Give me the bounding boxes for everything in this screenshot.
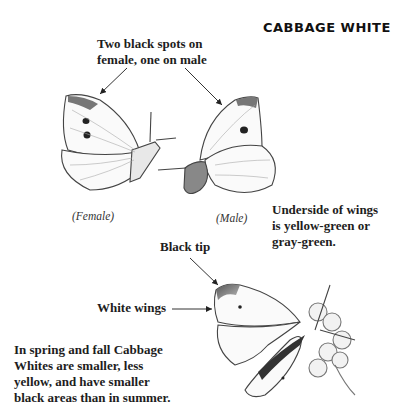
male-butterfly-icon [158,97,275,194]
illustration-canvas [0,0,405,415]
arrow-to-black-tip [190,258,218,285]
arrow-to-male [185,68,222,105]
flower-cluster-icon [309,303,355,395]
female-butterfly-icon [62,95,176,190]
arrow-to-female [100,68,127,94]
arrows [100,68,222,309]
butterfly-on-flower-icon [214,284,355,396]
